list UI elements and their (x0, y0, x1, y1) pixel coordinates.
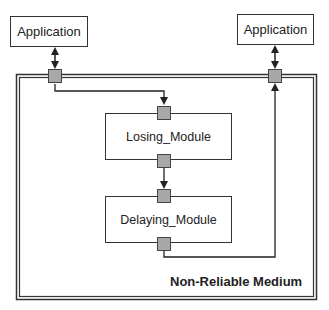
medium-port-left (48, 69, 62, 83)
delaying-module-port-in (157, 189, 171, 203)
application-label-left: Application (17, 24, 81, 39)
medium-port-right (268, 69, 282, 83)
application-label-right: Application (244, 22, 308, 37)
losing-module-port-in (157, 106, 171, 120)
application-box-right: Application (237, 14, 314, 45)
delaying-module-label: Delaying_Module (120, 213, 217, 227)
losing-module-box: Losing_Module (105, 113, 232, 160)
delaying-module-box: Delaying_Module (105, 196, 232, 243)
medium-label: Non-Reliable Medium (170, 274, 302, 289)
delaying-module-port-out (157, 237, 171, 251)
losing-module-port-out (157, 154, 171, 168)
losing-module-label: Losing_Module (126, 130, 211, 144)
application-box-left: Application (10, 16, 88, 47)
